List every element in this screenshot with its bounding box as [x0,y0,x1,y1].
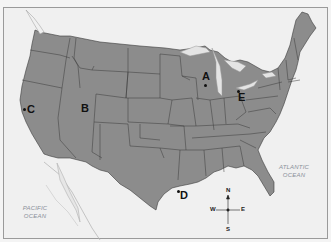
compass-north: N [226,187,230,193]
pacific-ocean-label: PACIFICOCEAN [17,204,53,220]
compass-east: E [241,206,245,212]
atlantic-ocean-label: ATLANTICOCEAN [276,163,312,179]
marker-a-dot [204,84,207,87]
marker-e-label: E [238,91,245,103]
marker-a-label: A [202,70,210,82]
compass-south: S [226,226,230,232]
compass-west: W [210,206,216,212]
marker-c-label: C [27,103,35,115]
marker-b-label: B [81,102,89,114]
marker-c-dot [23,108,26,111]
marker-d-label: D [180,189,188,201]
compass-rose [216,195,240,224]
